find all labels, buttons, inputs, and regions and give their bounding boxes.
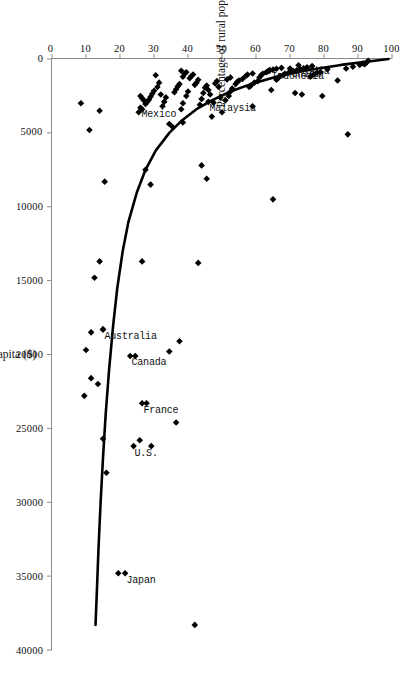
scatter-plot-figure: 0500010000150002000025000300003500040000… [0,0,420,678]
x-tick-label: 5000 [21,126,43,137]
chart-rotator: 0500010000150002000025000300003500040000… [0,0,420,678]
point-label-india: India [300,66,329,77]
point-label-france: France [143,404,178,415]
y-tick-label: 80 [318,42,329,53]
y-tick-label: 20 [114,42,125,53]
x-tick-label: 10000 [16,201,43,212]
point-label-mexico: Mexico [142,108,177,119]
x-tick-label: 30000 [16,497,43,508]
x-axis-title: GNP per capita ($) [0,348,36,360]
point-label-japan: Japan [126,575,155,586]
x-tick-label: 15000 [16,275,43,286]
x-tick-label: 25000 [16,423,43,434]
x-tick-label: 0 [38,53,43,64]
point-label-canada: Canada [131,357,166,368]
y-tick-label: 0 [48,43,53,54]
y-tick-label: 100 [384,43,400,54]
y-tick-label: 90 [352,42,363,53]
point-label-u-s: U.S. [135,447,158,458]
y-tick-label: 60 [250,42,261,53]
y-tick-label: 30 [148,42,159,53]
y-tick-label: 40 [182,42,193,53]
y-axis-title: Percentage of rural population ( Rural) [216,0,228,107]
plot-area [51,58,392,650]
point-label-australia: Australia [104,330,156,341]
x-tick-label: 35000 [16,571,43,582]
y-tick-label: 10 [80,42,91,53]
y-tick-label: 70 [284,42,295,53]
plot-canvas [52,59,392,650]
x-tick-label: 40000 [16,645,43,656]
